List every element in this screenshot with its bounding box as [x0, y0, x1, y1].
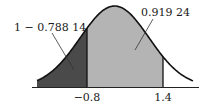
normal-distribution-diagram: −0.8 1.4 1 − 0.788 14 0.919 24 [0, 0, 209, 108]
tick-label-1-4: 1.4 [154, 91, 172, 104]
left-tail-area-label: 1 − 0.788 14 [14, 21, 86, 34]
tick-label-neg-0-8: −0.8 [74, 91, 101, 104]
cumulative-area-label: 0.919 24 [141, 6, 190, 19]
